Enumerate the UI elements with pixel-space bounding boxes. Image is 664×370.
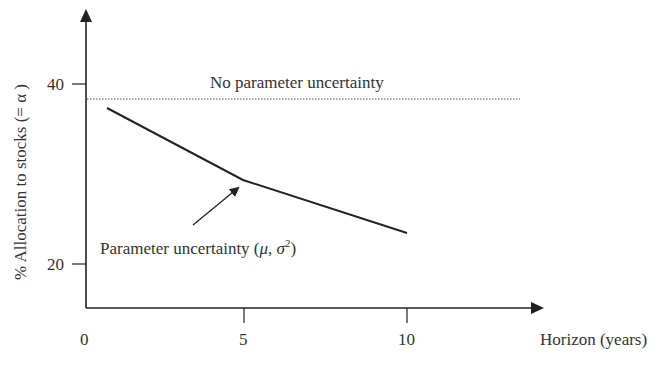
x-axis-label: Horizon (years) bbox=[540, 331, 647, 348]
y-axis-label: % Allocation to stocks (= α ) bbox=[12, 84, 29, 280]
chart-canvas bbox=[0, 0, 664, 370]
uncertainty-line bbox=[107, 108, 407, 233]
uncertainty-prefix: Parameter uncertainty ( bbox=[100, 239, 260, 258]
mu-symbol: μ bbox=[260, 239, 269, 258]
sigma-symbol: σ bbox=[277, 239, 285, 258]
annotation-arrow-icon bbox=[193, 188, 238, 225]
y-tick-label-40: 40 bbox=[47, 76, 64, 93]
x-axis-arrow-icon bbox=[531, 302, 544, 314]
y-tick-label-20: 20 bbox=[47, 256, 64, 273]
x-tick-label-10: 10 bbox=[398, 331, 415, 348]
x-tick-label-5: 5 bbox=[239, 331, 248, 348]
y-axis-arrow-icon bbox=[80, 9, 92, 22]
separator: , bbox=[268, 239, 277, 258]
close-paren: ) bbox=[290, 239, 296, 258]
no-uncertainty-annotation: No parameter uncertainty bbox=[210, 74, 384, 91]
x-tick-label-0: 0 bbox=[80, 331, 89, 348]
uncertainty-annotation: Parameter uncertainty (μ, σ2) bbox=[100, 238, 296, 257]
